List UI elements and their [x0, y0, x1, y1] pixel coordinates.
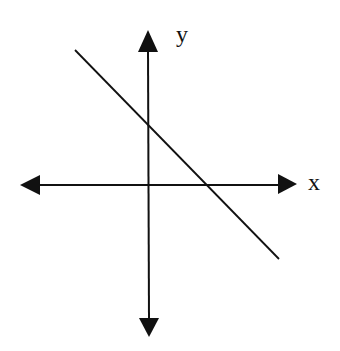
- plotted-line: [75, 50, 279, 259]
- x-axis-label: x: [308, 169, 320, 195]
- coordinate-plane: y x: [0, 0, 340, 351]
- x-axis: [20, 174, 297, 195]
- y-axis: [138, 30, 159, 337]
- x-axis-left-arrow-icon: [20, 175, 40, 195]
- y-axis-label: y: [176, 21, 188, 47]
- x-axis-right-arrow-icon: [278, 174, 297, 194]
- y-axis-up-arrow-icon: [138, 30, 158, 52]
- y-axis-down-arrow-icon: [139, 318, 159, 337]
